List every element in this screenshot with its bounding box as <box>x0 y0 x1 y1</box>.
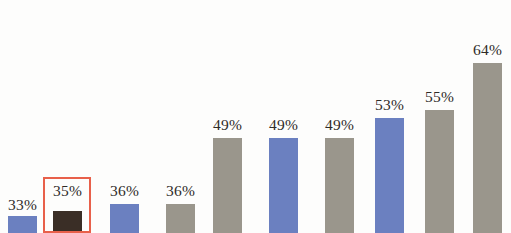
bar <box>473 63 502 233</box>
bar-value-label: 49% <box>269 116 298 134</box>
bar-group <box>473 63 502 233</box>
bar-value-label: 35% <box>53 182 82 200</box>
bar-group <box>375 118 404 233</box>
bar <box>53 211 82 233</box>
bar-value-label: 49% <box>325 116 354 134</box>
bar <box>213 138 242 233</box>
bar-group <box>213 138 242 233</box>
bar-value-label: 36% <box>166 182 195 200</box>
bar-group <box>425 110 454 233</box>
plot-area: 33%35%36%36%49%49%49%53%55%64% <box>0 0 511 233</box>
bar <box>375 118 404 233</box>
bar-value-label: 49% <box>213 116 242 134</box>
bar <box>325 138 354 233</box>
bar <box>425 110 454 233</box>
bar-value-label: 64% <box>473 41 502 59</box>
bar-group <box>166 204 195 233</box>
bar-group <box>325 138 354 233</box>
bar <box>8 216 37 233</box>
bar-group <box>269 138 298 233</box>
bar-value-label: 33% <box>8 196 37 214</box>
bar-value-label: 55% <box>425 88 454 106</box>
bar-group <box>53 211 82 233</box>
bar-value-label: 53% <box>375 96 404 114</box>
bar-group <box>8 216 37 233</box>
bar-value-label: 36% <box>110 182 139 200</box>
bar-chart: 33%35%36%36%49%49%49%53%55%64% <box>0 0 511 233</box>
bar-group <box>110 204 139 233</box>
bar <box>269 138 298 233</box>
bar <box>110 204 139 233</box>
bar <box>166 204 195 233</box>
